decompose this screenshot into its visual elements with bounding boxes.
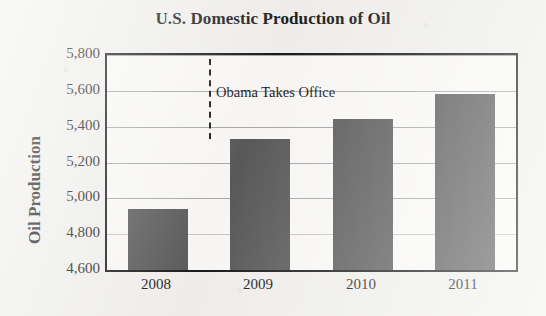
bar-2010 <box>333 119 393 270</box>
x-axis-tick-labels: 2008200920102011 <box>105 276 518 302</box>
x-tick-label-2008: 2008 <box>141 276 171 293</box>
y-tick-label: 5,600 <box>28 81 100 98</box>
y-tick-label: 5,000 <box>28 188 100 205</box>
y-tick-label: 4,600 <box>28 260 100 277</box>
plot-area: Obama Takes Office <box>105 53 518 272</box>
y-axis-tick-labels: 5,8005,6005,4005,2005,0004,8004,600 <box>28 53 100 272</box>
y-tick-label: 5,200 <box>28 153 100 170</box>
x-tick-label-2010: 2010 <box>346 276 376 293</box>
annotation-dashed-line <box>209 59 211 139</box>
x-tick-label-2011: 2011 <box>448 276 477 293</box>
bar-2008 <box>128 209 188 270</box>
chart-title: U.S. Domestic Production of Oil <box>0 9 546 29</box>
x-tick-label-2009: 2009 <box>243 276 273 293</box>
y-tick-label: 4,800 <box>28 224 100 241</box>
annotation-label: Obama Takes Office <box>216 84 335 101</box>
bar-2009 <box>230 139 290 270</box>
bar-chart-figure: U.S. Domestic Production of Oil Oil Prod… <box>0 0 546 316</box>
y-tick-label: 5,400 <box>28 117 100 134</box>
y-tick-label: 5,800 <box>28 45 100 62</box>
bar-2011 <box>435 94 495 270</box>
